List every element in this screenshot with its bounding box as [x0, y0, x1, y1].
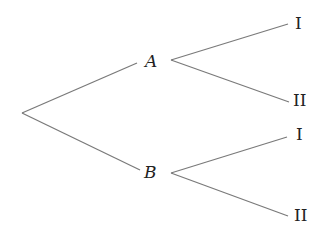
node-b-ii-label: II — [294, 207, 307, 224]
node-a-ii-label: II — [293, 92, 306, 109]
edge-root-to-a — [22, 63, 137, 113]
node-b-i-label: I — [296, 126, 303, 143]
tree-diagram — [0, 0, 327, 231]
edge-b-to-i — [171, 137, 287, 173]
edge-b-to-ii — [171, 173, 288, 216]
node-a-label: A — [145, 53, 157, 70]
edge-a-to-i — [171, 24, 288, 60]
edge-root-to-b — [22, 113, 140, 170]
node-b-label: B — [144, 164, 157, 181]
edge-a-to-ii — [171, 60, 289, 102]
node-a-i-label: I — [295, 15, 302, 32]
